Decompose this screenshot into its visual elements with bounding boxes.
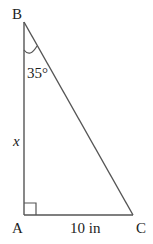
- side-bc-hypotenuse: [24, 22, 133, 215]
- side-ab-label: x: [12, 133, 20, 149]
- angle-arc-b: [24, 46, 37, 53]
- vertex-label-a: A: [12, 220, 23, 236]
- right-angle-marker: [24, 203, 36, 215]
- vertex-label-c: C: [136, 220, 146, 236]
- side-ac-label: 10 in: [70, 220, 101, 236]
- angle-b-label: 35°: [27, 65, 48, 81]
- vertex-label-b: B: [12, 6, 22, 22]
- triangle-diagram: B A C 35° x 10 in: [0, 0, 153, 244]
